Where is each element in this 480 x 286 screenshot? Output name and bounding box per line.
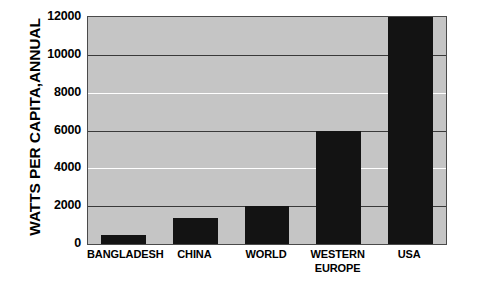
y-axis-tick-label: 6000 <box>54 123 81 137</box>
bar <box>388 17 433 244</box>
bar-chart: WATTS PER CAPITA,ANNUAL 0200040006000800… <box>0 0 480 286</box>
y-axis-tick-labels: 020004000600080001000012000 <box>40 16 84 243</box>
bar <box>173 218 218 244</box>
x-axis-category-label: WORLD <box>230 248 302 262</box>
x-axis-category-label: WESTERN EUROPE <box>302 248 374 275</box>
y-axis-tick-label: 0 <box>74 236 81 250</box>
x-axis-category-label: BANGLADESH <box>87 248 159 262</box>
y-axis-tick-label: 4000 <box>54 160 81 174</box>
x-axis-category-labels: BANGLADESHCHINAWORLDWESTERN EUROPEUSA <box>87 248 445 282</box>
y-axis-tick-label: 2000 <box>54 198 81 212</box>
plot-area <box>87 16 447 245</box>
bar <box>101 235 146 244</box>
bar <box>316 131 361 245</box>
x-axis-category-label: USA <box>373 248 445 262</box>
x-axis-category-label: CHINA <box>159 248 231 262</box>
y-axis-tick-label: 10000 <box>47 47 81 61</box>
y-axis-tick-label: 8000 <box>54 85 81 99</box>
bar <box>245 206 290 244</box>
y-axis-tick-label: 12000 <box>47 9 81 23</box>
bars <box>88 17 446 244</box>
